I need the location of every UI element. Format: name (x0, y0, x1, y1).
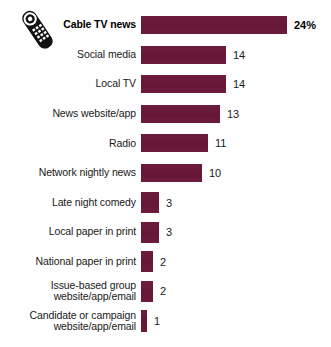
bar-track: 10 (141, 160, 331, 186)
bar-value-label: 11 (215, 137, 226, 149)
bar-value-label: 14 (233, 78, 245, 90)
bar-category-label: Radio (0, 138, 141, 150)
bar-category-label: Cable TV news (0, 19, 141, 31)
bar-track: 13 (141, 101, 331, 127)
bar-category-label: Local paper in print (0, 226, 141, 238)
bar-value-label: 13 (227, 108, 239, 120)
bar-track: 24% (141, 12, 331, 38)
bar-track: 14 (141, 71, 331, 97)
bar (141, 222, 159, 243)
bar-chart: Cable TV news24%Social media14Local TV14… (0, 0, 331, 347)
bar-value-label: 2 (160, 285, 166, 297)
bar-row: News website/app13 (0, 101, 331, 127)
bar-category-label: Late night comedy (0, 197, 141, 209)
bar-value-label: 3 (166, 226, 172, 238)
bar-value-label: 3 (166, 197, 172, 209)
bar (141, 134, 208, 152)
bar-category-label: Network nightly news (0, 167, 141, 179)
bar-category-label: National paper in print (0, 256, 141, 268)
bar-row: Cable TV news24% (0, 12, 331, 38)
bar-track: 2 (141, 278, 331, 304)
bar-track: 3 (141, 219, 331, 245)
bar-row: Local paper in print3 (0, 219, 331, 245)
bar-value-label: 2 (160, 256, 166, 268)
bar-category-label: News website/app (0, 108, 141, 120)
bar-category-label: Local TV (0, 78, 141, 90)
bar-track: 14 (141, 42, 331, 68)
bar-value-label: 10 (209, 167, 221, 179)
bar-track: 3 (141, 190, 331, 216)
bar (141, 192, 159, 213)
bar-row: Local TV14 (0, 71, 331, 97)
bar-track: 1 (141, 308, 331, 334)
bar (141, 310, 147, 332)
bar (141, 105, 220, 123)
bar-value-label: 1 (154, 315, 160, 327)
bar-category-label: Candidate or campaign website/app/email (0, 310, 141, 333)
bar-row: Network nightly news10 (0, 160, 331, 186)
bar (141, 281, 153, 302)
bar-category-label: Issue-based group website/app/email (0, 280, 141, 303)
bar-value-label: 24% (294, 19, 316, 31)
bar-row: Social media14 (0, 42, 331, 68)
bar (141, 164, 202, 182)
bar-value-label: 14 (233, 49, 245, 61)
bar-row: Issue-based group website/app/email2 (0, 278, 331, 304)
bar-row: National paper in print2 (0, 249, 331, 275)
bar (141, 75, 226, 93)
bar-row: Radio11 (0, 130, 331, 156)
bar-category-label: Social media (0, 49, 141, 61)
bar-row: Late night comedy3 (0, 190, 331, 216)
bar-track: 11 (141, 130, 331, 156)
bar (141, 46, 226, 64)
bar (141, 16, 287, 34)
bar (141, 251, 153, 272)
bar-track: 2 (141, 249, 331, 275)
bar-row: Candidate or campaign website/app/email1 (0, 308, 331, 334)
